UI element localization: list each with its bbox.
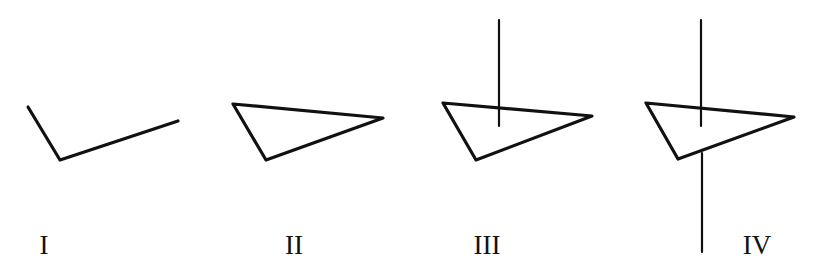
figure-label-ii: II: [285, 230, 303, 260]
triangle-shape: [443, 103, 592, 160]
figure-label-i: I: [40, 230, 49, 260]
figure-ii: II: [233, 104, 383, 260]
figure-iv: IV: [646, 20, 794, 260]
figure-iii: III: [443, 20, 592, 260]
open-angle-shape: [28, 107, 178, 160]
triangle-shape: [646, 103, 794, 159]
diagram-canvas: I II III IV: [0, 0, 815, 270]
figure-i: I: [28, 107, 178, 260]
figure-label-iii: III: [474, 230, 501, 260]
figure-label-iv: IV: [743, 230, 772, 260]
triangle-shape: [233, 104, 383, 160]
